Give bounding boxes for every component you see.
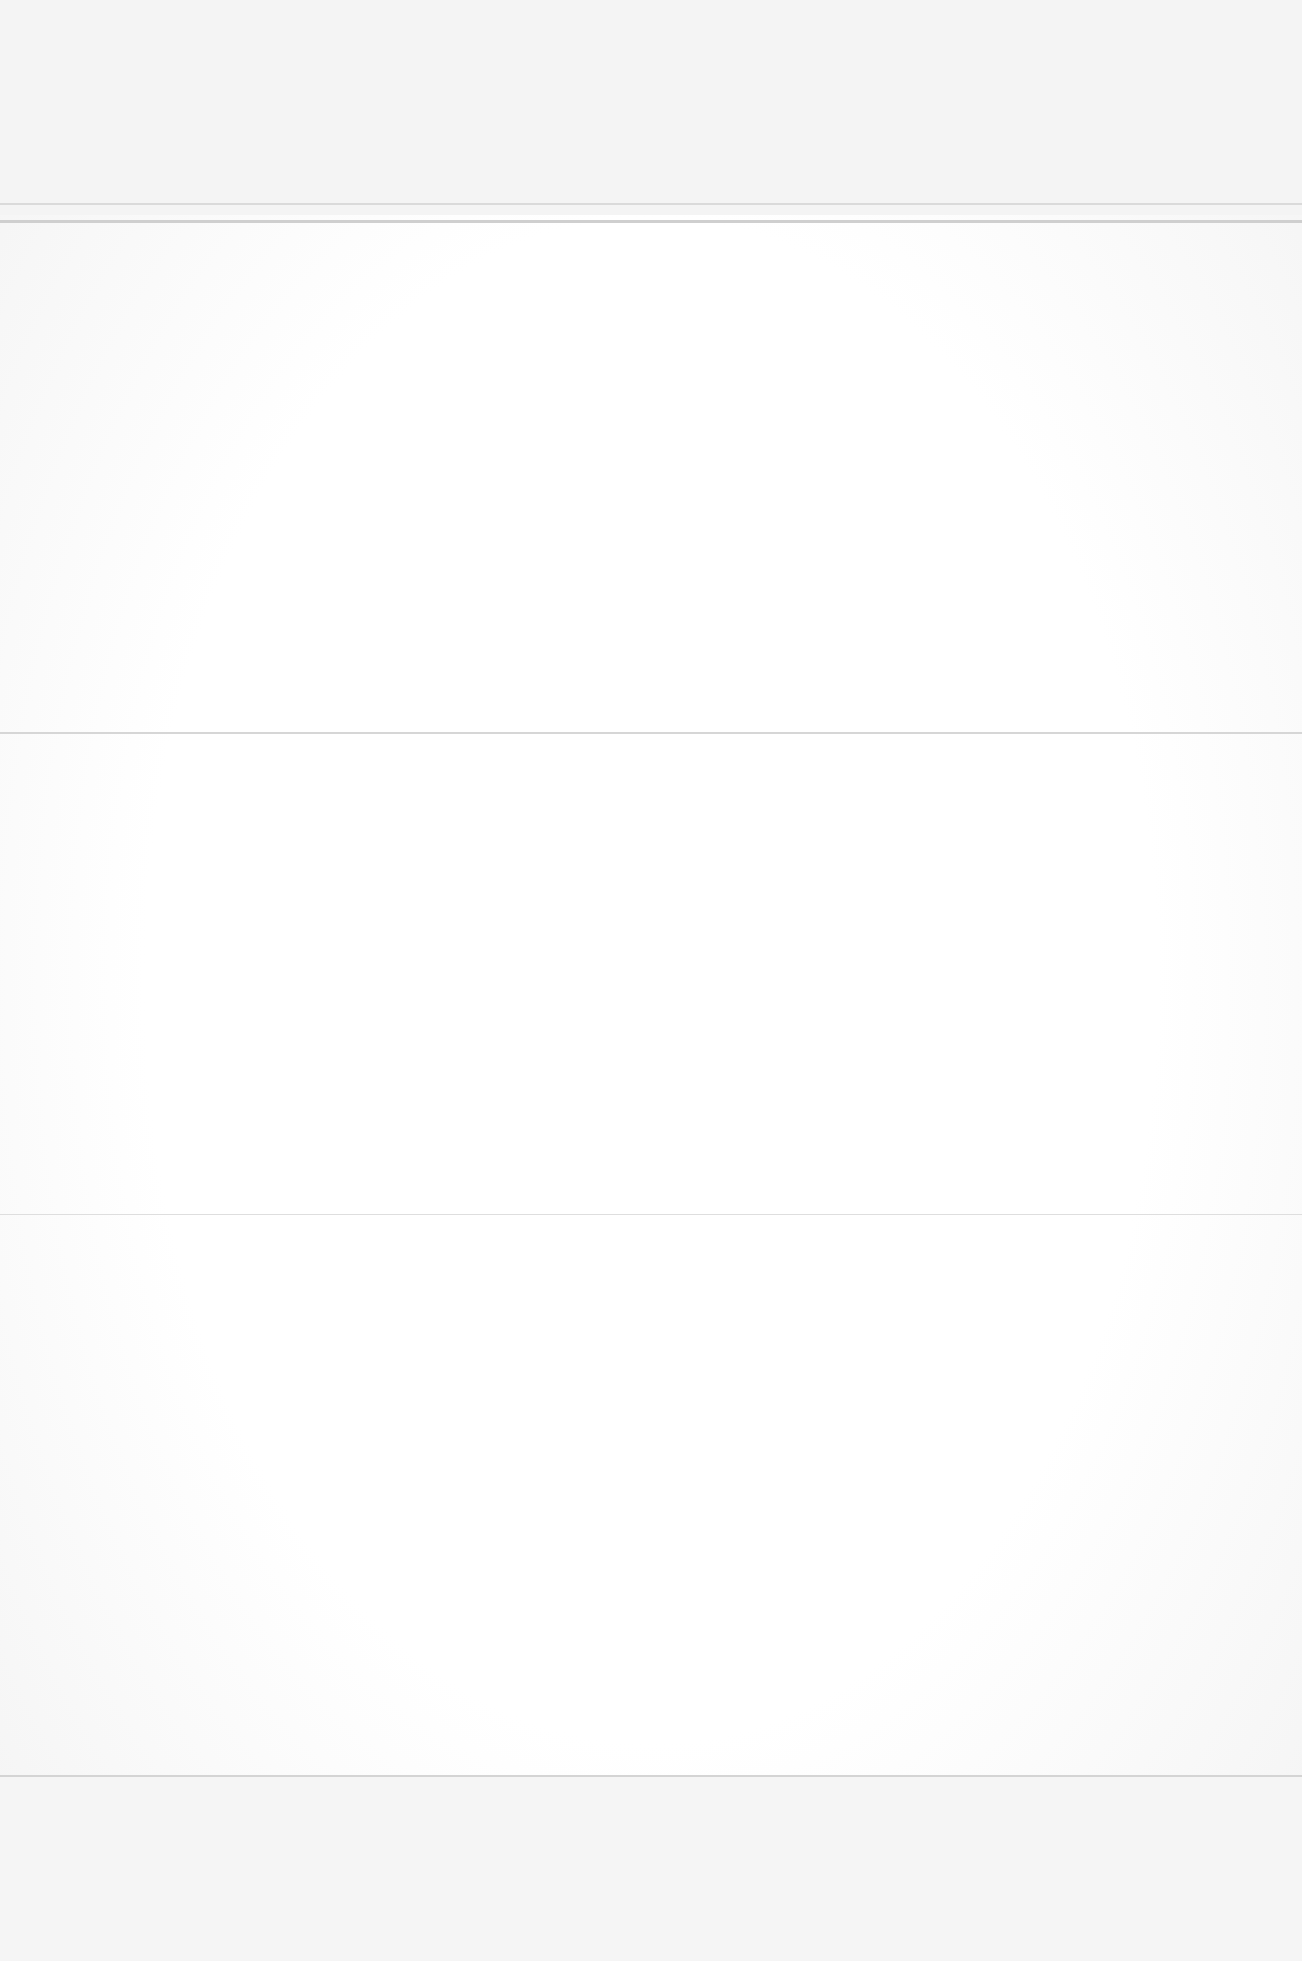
rule-line-3 bbox=[0, 732, 1302, 734]
rule-line-2 bbox=[0, 220, 1302, 223]
top-gray-band bbox=[0, 0, 1302, 215]
rule-line-4 bbox=[0, 1214, 1302, 1215]
rule-line-1 bbox=[0, 203, 1302, 205]
bottom-gray-band bbox=[0, 1777, 1302, 1961]
